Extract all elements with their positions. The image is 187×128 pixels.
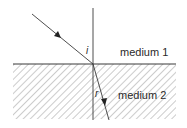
medium-1-label: medium 1: [120, 46, 168, 58]
medium-2-label: medium 2: [118, 89, 166, 101]
incident-angle-label: i: [86, 45, 89, 56]
incident-arrow-icon: [54, 31, 61, 38]
incident-ray: [32, 14, 93, 64]
refraction-diagram: i r medium 1 medium 2: [0, 0, 187, 128]
